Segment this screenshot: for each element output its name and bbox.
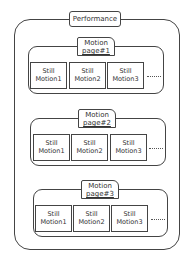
- motion-label: Motion2: [72, 147, 107, 155]
- motion-page-2-label: Motion page#2: [78, 109, 116, 128]
- motion-page-3-label: Motion page#3: [81, 180, 119, 199]
- motion-page-title: Motion: [79, 111, 115, 119]
- motion-page-number: page#2: [79, 119, 115, 127]
- still-motion-2: Still Motion2: [69, 62, 106, 89]
- ellipsis-icon: [147, 76, 161, 78]
- motion-label: Motion2: [70, 75, 105, 83]
- motion-label: Motion3: [112, 218, 147, 226]
- performance-label: Performance: [69, 11, 121, 27]
- ellipsis-icon: [149, 148, 163, 150]
- motion-page-title: Motion: [82, 182, 118, 190]
- motion-page-number: page#3: [82, 190, 118, 198]
- motion-label: Motion1: [34, 147, 69, 155]
- ellipsis-icon: [151, 219, 165, 221]
- motion-label: Motion1: [31, 75, 66, 83]
- still-label: Still: [74, 210, 109, 218]
- still-label: Still: [31, 67, 66, 75]
- still-motion-3: Still Motion3: [107, 62, 144, 89]
- still-label: Still: [112, 210, 147, 218]
- still-label: Still: [111, 139, 146, 147]
- still-motion-1: Still Motion1: [30, 62, 67, 89]
- still-label: Still: [34, 139, 69, 147]
- motion-label: Motion3: [108, 75, 143, 83]
- still-label: Still: [70, 67, 105, 75]
- still-label: Still: [72, 139, 107, 147]
- still-motion-3: Still Motion3: [111, 205, 148, 232]
- still-label: Still: [108, 67, 143, 75]
- still-motion-2: Still Motion2: [71, 134, 108, 161]
- motion-page-number: page#1: [78, 47, 114, 55]
- motion-label: Motion1: [36, 218, 71, 226]
- motion-label: Motion2: [74, 218, 109, 226]
- still-motion-2: Still Motion2: [73, 205, 110, 232]
- motion-page-1-label: Motion page#1: [77, 37, 115, 56]
- still-label: Still: [36, 210, 71, 218]
- motion-label: Motion3: [111, 147, 146, 155]
- still-motion-1: Still Motion1: [33, 134, 70, 161]
- still-motion-1: Still Motion1: [35, 205, 72, 232]
- motion-page-title: Motion: [78, 39, 114, 47]
- still-motion-3: Still Motion3: [110, 134, 147, 161]
